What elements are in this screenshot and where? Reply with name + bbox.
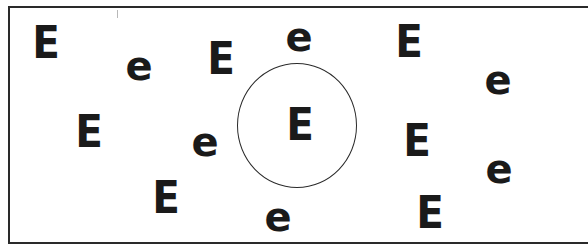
letter-e-top-left: e <box>125 46 152 86</box>
letter-E-top-mid: E <box>207 37 235 81</box>
letter-E-top-left: E <box>32 21 60 65</box>
letter-e-top-right: e <box>484 60 511 100</box>
letter-E-bottom-right: E <box>416 191 444 235</box>
letter-E-mid-right: E <box>403 119 431 163</box>
letter-E-circled: E <box>286 103 314 147</box>
letter-e-bottom-center: e <box>264 197 291 237</box>
letter-e-top-center: e <box>285 17 312 57</box>
letter-E-top-right: E <box>395 20 423 64</box>
letter-e-mid-left: e <box>191 122 218 162</box>
letter-E-mid-left: E <box>75 110 103 154</box>
scan-tick-mark <box>117 10 118 18</box>
letter-E-bottom-left: E <box>152 176 180 220</box>
letter-e-mid-right: e <box>485 149 512 189</box>
